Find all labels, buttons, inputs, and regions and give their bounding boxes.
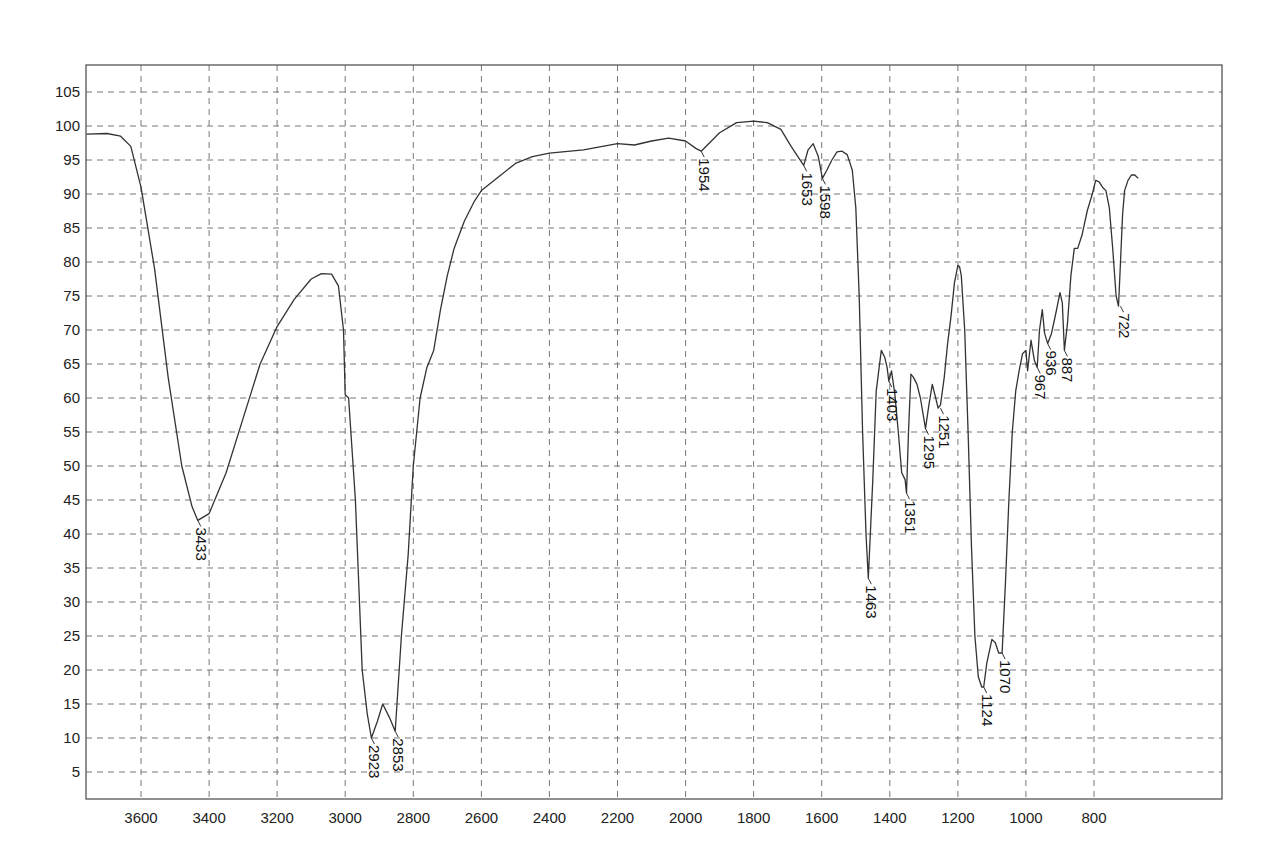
x-tick-label: 1000 [1009, 809, 1042, 826]
peak-leader-line [1048, 344, 1051, 350]
peak-leader-line [804, 165, 807, 171]
x-tick-label: 2400 [533, 809, 566, 826]
y-tick-label: 80 [63, 253, 80, 270]
peak-label: 887 [1059, 357, 1076, 382]
y-tick-label: 50 [63, 457, 80, 474]
peak-leader-line [1002, 653, 1005, 659]
peak-label: 1954 [696, 158, 713, 191]
peak-label: 2853 [390, 738, 407, 771]
x-tick-label: 1600 [805, 809, 838, 826]
x-tick-label: 2600 [465, 809, 498, 826]
y-tick-label: 20 [63, 661, 80, 678]
peak-leader-line [198, 520, 201, 526]
y-tick-label: 90 [63, 185, 80, 202]
peak-leader-line [907, 493, 910, 499]
y-tick-label: 40 [63, 525, 80, 542]
y-tick-label: 70 [63, 321, 80, 338]
x-tick-label: 3200 [260, 809, 293, 826]
x-tick-label: 3000 [329, 809, 362, 826]
peak-label: 722 [1116, 313, 1133, 338]
x-tick-label: 1200 [941, 809, 974, 826]
peak-leader-line [822, 178, 825, 184]
peak-leader-line [1121, 306, 1124, 312]
y-tick-label: 45 [63, 491, 80, 508]
x-tick-label: 2800 [397, 809, 430, 826]
y-tick-label: 10 [63, 729, 80, 746]
y-tick-label: 75 [63, 287, 80, 304]
x-tick-label: 2200 [601, 809, 634, 826]
peak-label: 1124 [979, 694, 996, 726]
x-tick-label: 1400 [873, 809, 906, 826]
peak-annotations: 3433292328531954165315981463140313511295… [193, 151, 1133, 778]
peak-label: 1463 [863, 585, 880, 618]
peak-label: 1295 [921, 436, 938, 469]
x-axis-tick-labels: 3600340032003000280026002400220020001800… [124, 809, 1106, 826]
grid-lines [86, 65, 1222, 799]
y-tick-label: 60 [63, 389, 80, 406]
x-tick-label: 2000 [669, 809, 702, 826]
y-tick-label: 30 [63, 593, 80, 610]
x-tick-label: 1800 [737, 809, 770, 826]
peak-label: 1070 [997, 660, 1014, 693]
y-tick-label: 100 [55, 117, 80, 134]
peak-leader-line [1064, 350, 1067, 356]
peak-label: 1351 [902, 500, 919, 533]
y-tick-label: 5 [72, 763, 80, 780]
spectrum-line [87, 121, 1139, 738]
peak-label: 936 [1043, 351, 1060, 376]
peak-leader-line [941, 408, 944, 414]
peak-leader-line [371, 738, 374, 744]
peak-leader-line [868, 578, 871, 584]
y-tick-label: 55 [63, 423, 80, 440]
x-tick-label: 3600 [124, 809, 157, 826]
x-tick-label: 3400 [192, 809, 225, 826]
peak-label: 967 [1032, 374, 1049, 399]
peak-leader-line [701, 151, 704, 157]
y-axis-tick-labels: 5101520253035404550556065707580859095100… [55, 83, 80, 780]
peak-leader-line [984, 687, 987, 693]
peak-label: 1403 [884, 388, 901, 421]
peak-leader-line [1037, 367, 1040, 373]
peak-label: 2923 [366, 745, 383, 778]
y-tick-label: 35 [63, 559, 80, 576]
x-tick-label: 800 [1081, 809, 1106, 826]
y-tick-label: 95 [63, 151, 80, 168]
ir-spectrum-chart: 5101520253035404550556065707580859095100… [0, 0, 1268, 867]
y-tick-label: 105 [55, 83, 80, 100]
peak-label: 1653 [799, 172, 816, 205]
peak-label: 1251 [936, 415, 953, 448]
peak-label: 1598 [817, 185, 834, 218]
y-tick-label: 25 [63, 627, 80, 644]
peak-label: 3433 [193, 527, 210, 560]
y-tick-label: 15 [63, 695, 80, 712]
y-tick-label: 85 [63, 219, 80, 236]
peak-leader-line [395, 731, 398, 737]
y-tick-label: 65 [63, 355, 80, 372]
